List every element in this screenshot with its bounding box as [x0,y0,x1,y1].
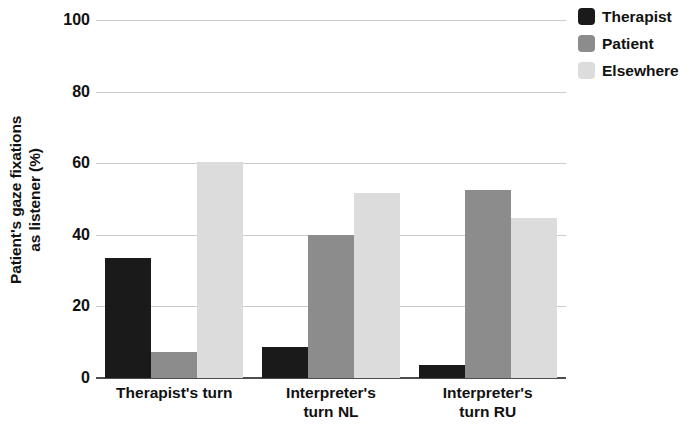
x-axis-label: Interpreter'sturn NL [253,384,410,432]
x-axis-label-line-1: Interpreter's [443,384,533,401]
legend-item-label: Therapist [602,8,672,26]
bar-groups [96,20,566,378]
x-axis-label: Interpreter'sturn RU [409,384,566,432]
x-axis-label-line-2: turn NL [253,403,410,422]
y-tick-0: 0 [48,370,90,386]
x-axis-label-line-2: turn RU [409,403,566,422]
y-axis-ticks: 100 80 60 40 20 0 [34,20,90,378]
bar-group-bars [96,20,253,378]
x-axis-label-line-1: Therapist's turn [116,384,233,401]
bar-group [409,20,566,378]
legend-item[interactable]: Elsewhere [578,57,695,84]
bar-chart-figure: Patient's gaze fixations as listener (%)… [0,0,695,432]
bar [465,190,511,378]
x-axis-labels: Therapist's turnInterpreter'sturn NLInte… [96,384,566,432]
legend-swatch-icon [578,62,595,79]
y-tick-80: 80 [48,84,90,100]
bar [105,258,151,378]
legend-item-label: Elsewhere [602,62,679,80]
legend-swatch-icon [578,8,595,25]
bar-group [253,20,410,378]
bar [197,162,243,378]
y-tick-40: 40 [48,227,90,243]
y-axis-title-line-1: Patient's gaze fixations [7,116,24,284]
y-tick-60: 60 [48,155,90,171]
bar [262,347,308,378]
y-tick-20: 20 [48,298,90,314]
bar-group [96,20,253,378]
x-axis-label: Therapist's turn [96,384,253,432]
legend-item-label: Patient [602,35,654,53]
bar-group-bars [409,20,566,378]
y-tick-100: 100 [48,12,90,28]
plot-area [96,20,566,378]
bar-group-bars [253,20,410,378]
bar [151,352,197,378]
legend-swatch-icon [578,35,595,52]
bar [511,218,557,378]
bar [354,193,400,378]
bar [308,235,354,378]
legend: TherapistPatientElsewhere [578,3,695,84]
legend-item[interactable]: Therapist [578,3,695,30]
bar [419,365,465,378]
x-axis-label-line-1: Interpreter's [286,384,376,401]
legend-item[interactable]: Patient [578,30,695,57]
